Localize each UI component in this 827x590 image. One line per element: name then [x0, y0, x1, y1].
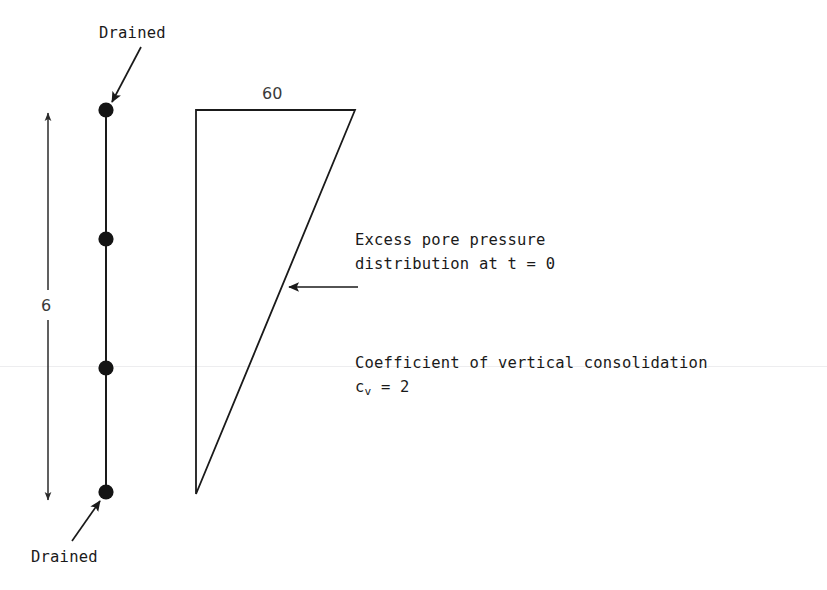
coefficient-annotation-line-1: Coefficient of vertical consolidation	[355, 354, 708, 372]
consolidation-coefficient-annotation: Coefficient of vertical consolidationcv …	[355, 351, 708, 399]
excess-annotation-line-1: Excess pore pressure	[355, 231, 546, 249]
pressure-distribution-triangle	[196, 110, 355, 494]
drained-top-pointer	[112, 47, 141, 102]
drained-bottom-pointer	[72, 501, 100, 541]
coefficient-value: = 2	[371, 378, 409, 396]
diagram-vector-layer	[0, 0, 827, 590]
thickness-value-label: 6	[41, 297, 51, 315]
node-marker	[98, 484, 113, 499]
pressure-value-label: 60	[262, 85, 282, 103]
excess-annotation-line-2: distribution at t = 0	[355, 255, 555, 273]
drained-top-label: Drained	[99, 21, 166, 45]
drained-bottom-label: Drained	[31, 545, 98, 569]
node-marker	[98, 231, 113, 246]
node-marker	[98, 360, 113, 375]
excess-pore-pressure-annotation: Excess pore pressuredistribution at t = …	[355, 228, 555, 276]
node-marker	[98, 102, 113, 117]
diagram-canvas: Drained Drained 60 6 Excess pore pressur…	[0, 0, 827, 590]
coefficient-symbol: c	[355, 378, 365, 396]
